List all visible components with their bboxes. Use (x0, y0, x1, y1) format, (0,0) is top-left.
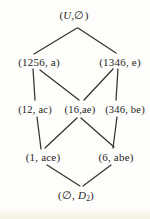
node-label-empty-D2: (∅, D2) (58, 189, 94, 202)
edge-top-to-1346e (78, 28, 116, 53)
node-top-var: U (63, 9, 71, 21)
node-label-16-ae: (16,ae) (65, 103, 96, 116)
node-label-1-ace: (1, ace) (26, 151, 61, 164)
hasse-diagram-figure: (U,∅) (1256, a) (1346, e) (12, ac) (16,a… (0, 0, 150, 219)
edge-6abe-to-bottom (83, 165, 111, 186)
node-bottom-var: D (78, 189, 86, 201)
node-label-U-empty: (U,∅) (59, 9, 88, 22)
node-bottom-close: ) (90, 189, 94, 201)
edge-1346e-to-16ae (84, 69, 113, 100)
node-label-12-ac: (12, ac) (18, 103, 52, 116)
node-label-1346-e: (1346, e) (99, 56, 141, 69)
edge-12ac-to-1ace (37, 117, 41, 149)
edge-1ace-to-bottom (47, 165, 80, 186)
edge-1256a-to-16ae (40, 70, 79, 100)
node-bottom-open: (∅, (58, 189, 78, 201)
node-top-close: ,∅) (72, 9, 89, 21)
edge-16ae-to-1ace (45, 118, 77, 148)
node-label-1256-a: (1256, a) (18, 56, 60, 69)
edge-top-to-1256a (34, 28, 77, 54)
node-label-6-abe: (6, abe) (98, 151, 133, 164)
edge-346be-to-6abe (113, 117, 117, 148)
node-label-346-be: (346, be) (105, 103, 145, 116)
edge-16ae-to-6abe (81, 118, 114, 147)
edge-1346e-to-346be (116, 69, 118, 100)
edge-1256a-to-12ac (33, 69, 35, 100)
